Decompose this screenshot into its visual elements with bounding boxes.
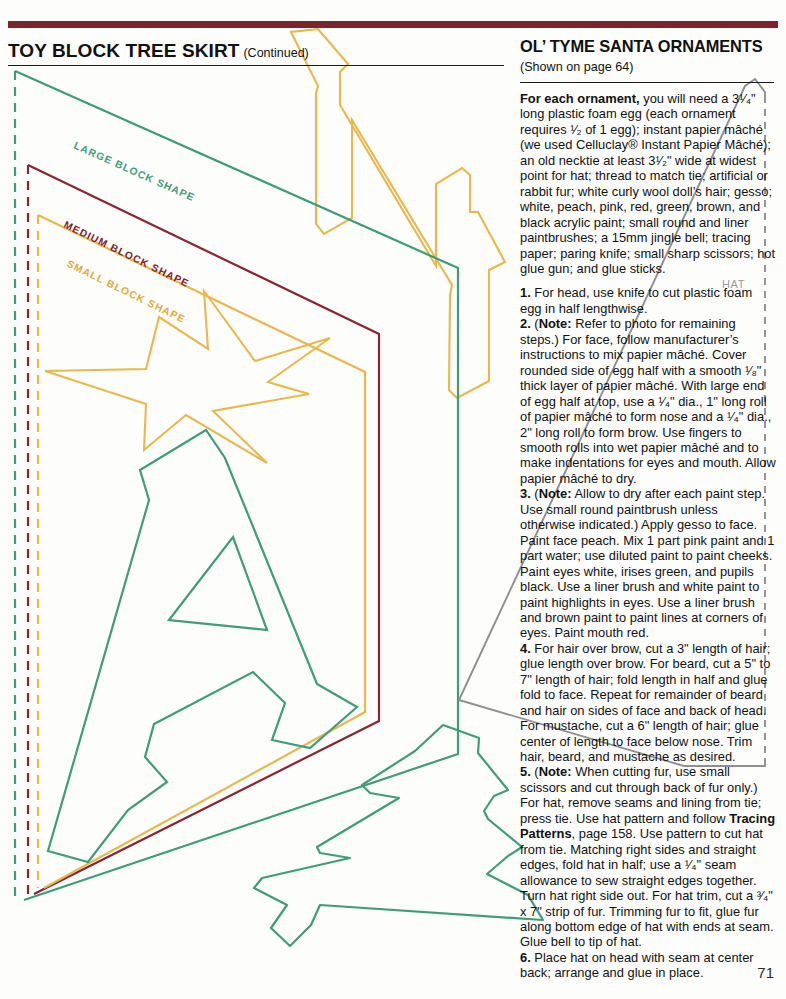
right-column-divider	[520, 82, 774, 83]
step-4: 4. For hair over brow, cut a 3" length o…	[520, 641, 776, 765]
page-title-continued: (Continued)	[239, 46, 308, 60]
page-title: TOY BLOCK TREE SKIRT	[8, 40, 239, 62]
page-root: LARGE BLOCK SHAPE MEDIUM BLOCK SHAPE SMA…	[0, 0, 786, 999]
left-column-divider	[8, 65, 504, 66]
step-2-text: Refer to photo for remaining steps.) For…	[520, 316, 776, 486]
step-5-text-after: , page 158. Use pattern to cut hat from …	[520, 826, 774, 949]
paragraph-gap	[520, 276, 776, 285]
step-4-number: 4.	[520, 641, 531, 656]
materials-paragraph: For each ornament, you will need a 3¹⁄₄"…	[520, 91, 776, 276]
step-3: 3. (Note: Allow to dry after each paint …	[520, 486, 776, 641]
step-1-number: 1.	[520, 285, 531, 300]
right-column: OL’ TYME SANTA ORNAMENTS (Shown on page …	[520, 34, 778, 989]
step-1: 1. For head, use knife to cut plastic fo…	[520, 285, 776, 316]
step-5: 5. (Note: When cutting fur, use small sc…	[520, 764, 776, 949]
materials-lead: For each ornament,	[520, 91, 640, 106]
step-3-number: 3.	[520, 486, 531, 501]
left-column-heading: TOY BLOCK TREE SKIRT(Continued)	[8, 40, 504, 62]
left-column: TOY BLOCK TREE SKIRT(Continued)	[8, 34, 504, 989]
article-body: For each ornament, you will need a 3¹⁄₄"…	[520, 91, 776, 981]
article-title: OL’ TYME SANTA ORNAMENTS	[520, 37, 778, 56]
step-2: 2. (Note: Refer to photo for remaining s…	[520, 316, 776, 486]
materials-body: you will need a 3¹⁄₄" long plastic foam …	[520, 91, 775, 276]
step-5-note-label: Note:	[539, 764, 572, 779]
step-5-number: 5.	[520, 764, 531, 779]
top-accent-rule	[8, 21, 778, 28]
article-subtitle: (Shown on page 64)	[520, 60, 633, 74]
step-3-text: Allow to dry after each paint step. Use …	[520, 486, 774, 640]
step-2-note-label: Note:	[539, 316, 572, 331]
step-6-number: 6.	[520, 950, 531, 965]
step-1-text: For head, use knife to cut plastic foam …	[520, 285, 752, 315]
step-4-text: For hair over brow, cut a 3" length of h…	[520, 641, 770, 764]
step-3-note-label: Note:	[539, 486, 572, 501]
step-2-number: 2.	[520, 316, 531, 331]
page-number: 71	[520, 964, 774, 981]
